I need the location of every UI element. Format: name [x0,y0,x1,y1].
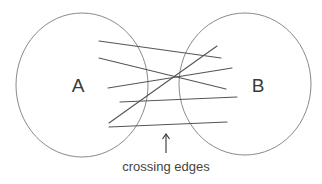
arrow-up-icon [163,134,170,153]
edge-1 [99,41,221,58]
edges-group [99,41,237,127]
set-b-label: B [252,76,265,95]
edge-3 [108,68,232,88]
edge-5 [109,46,217,123]
crossing-edges-caption: crossing edges [122,160,209,173]
edge-4 [120,97,237,102]
set-b-circle [179,13,311,155]
set-a-label: A [72,76,85,95]
edge-6 [109,122,227,127]
crossing-edges-diagram [0,0,322,184]
